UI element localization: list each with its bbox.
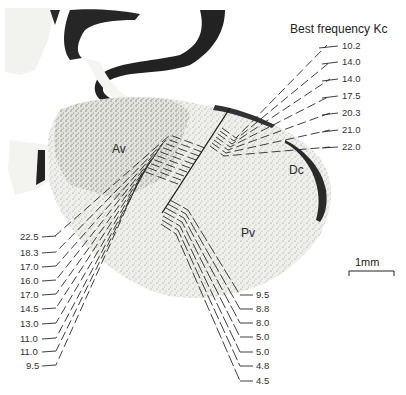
left-track-label: 18.3 xyxy=(20,248,39,258)
region-label-dc: Dc xyxy=(289,163,304,177)
left-track-label: 14.5 xyxy=(20,304,39,314)
cortical-fold-dark-1 xyxy=(64,9,140,60)
right-track-label: 17.5 xyxy=(342,91,361,101)
bottom-track-label: 8.0 xyxy=(256,318,269,328)
figure-canvas: Best frequency Kc Av Dc Pv 1mm 10.2 14.0… xyxy=(0,0,406,395)
left-track-label: 11.0 xyxy=(20,334,38,344)
right-track-ticks xyxy=(319,46,338,148)
bottom-track-label: 9.5 xyxy=(256,290,269,300)
bottom-track-label: 4.5 xyxy=(256,376,269,386)
left-track-label: 17.0 xyxy=(20,290,39,300)
left-track-label: 17.0 xyxy=(20,262,39,272)
right-track-label: 10.2 xyxy=(342,41,361,51)
right-track-label: 14.0 xyxy=(342,74,361,84)
bottom-track-label: 8.8 xyxy=(256,304,269,314)
right-track-label: 22.0 xyxy=(342,142,361,152)
scale-bar-label: 1mm xyxy=(355,256,379,268)
bottom-track-label: 5.0 xyxy=(256,332,269,342)
scale-bar xyxy=(349,271,394,276)
region-label-pv: Pv xyxy=(241,226,255,240)
right-track-label: 14.0 xyxy=(342,57,361,67)
right-track-label: 21.0 xyxy=(342,125,361,135)
figure-title: Best frequency Kc xyxy=(290,22,387,36)
left-track-label: 22.5 xyxy=(20,232,39,242)
bottom-track-label: 4.8 xyxy=(256,361,269,371)
left-track-label: 13.0 xyxy=(20,319,39,329)
right-track-label: 20.3 xyxy=(342,108,361,118)
left-track-label: 11.0 xyxy=(20,347,38,357)
left-track-label: 9.5 xyxy=(26,361,39,371)
left-track-label: 16.0 xyxy=(20,276,39,286)
region-label-av: Av xyxy=(112,142,126,156)
bottom-track-label: 5.0 xyxy=(256,347,269,357)
faint-tissue-upper-left xyxy=(5,8,55,75)
bottom-track-ticks xyxy=(240,295,253,381)
left-track-ticks xyxy=(42,236,56,366)
